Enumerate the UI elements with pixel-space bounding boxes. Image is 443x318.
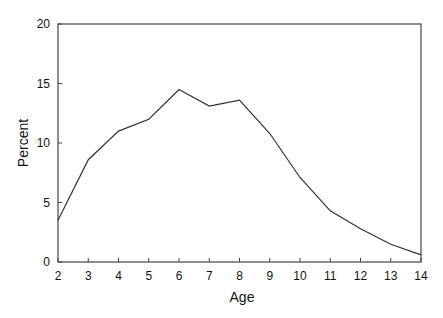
x-tick-label: 9 (266, 269, 273, 283)
plot-border (58, 24, 421, 262)
line-chart: 05101520 234567891011121314 Age Percent (0, 0, 443, 318)
plot-area (58, 24, 421, 262)
y-tick-label: 20 (37, 17, 51, 31)
x-tick-label: 3 (85, 269, 92, 283)
x-tick-label: 2 (55, 269, 62, 283)
x-tick-label: 14 (414, 269, 428, 283)
x-tick-label: 13 (384, 269, 398, 283)
x-tick-label: 8 (236, 269, 243, 283)
y-tick-label: 5 (43, 196, 50, 210)
x-tick-label: 11 (324, 269, 337, 283)
x-axis-title: Age (230, 289, 255, 305)
x-tick-label: 12 (354, 269, 368, 283)
y-axis-title: Percent (15, 119, 31, 167)
x-tick-label: 10 (293, 269, 307, 283)
x-tick-label: 7 (206, 269, 213, 283)
y-tick-label: 15 (37, 77, 51, 91)
x-tick-label: 6 (176, 269, 183, 283)
x-tick-label: 4 (115, 269, 122, 283)
y-tick-label: 10 (37, 136, 51, 150)
y-tick-label: 0 (43, 255, 50, 269)
data-line (58, 90, 421, 255)
x-tick-label: 5 (145, 269, 152, 283)
